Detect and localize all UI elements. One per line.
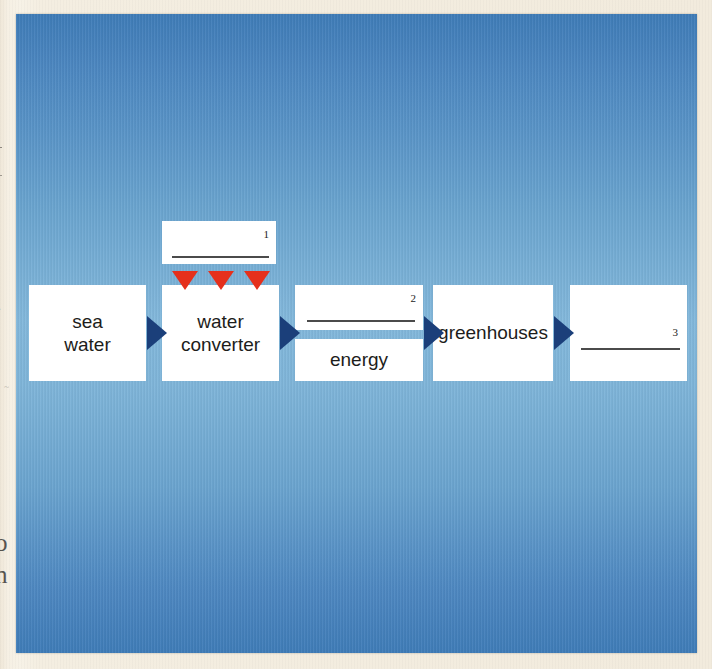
node-label-line: converter xyxy=(181,333,260,356)
node-label-line: water xyxy=(64,333,110,356)
flow-arrow-icon xyxy=(280,316,300,350)
diagram-node-water-converter: water converter xyxy=(162,285,279,381)
page-edge-fragment: - xyxy=(0,168,2,181)
red-triangle-icon xyxy=(208,271,234,290)
red-triangle-icon xyxy=(244,271,270,290)
blank-number-3: 3 xyxy=(673,326,679,338)
page-edge-fragment: n xyxy=(0,562,8,587)
node-label-line: greenhouses xyxy=(438,321,548,344)
diagram-node-blank-3[interactable]: 3 xyxy=(570,285,687,381)
flow-arrow-icon xyxy=(424,316,444,350)
blank-rule-1 xyxy=(172,256,269,258)
scanned-page: - - . ~ o n 1 sea water water converter xyxy=(0,0,712,669)
figure-panel: 1 sea water water converter 2 xyxy=(16,14,697,653)
flow-arrow-icon xyxy=(147,316,167,350)
diagram-node-sea-water: sea water xyxy=(29,285,146,381)
diagram-node-blank-2[interactable]: 2 xyxy=(295,285,423,330)
page-edge-fragment: . xyxy=(0,300,1,312)
node-label-line: water xyxy=(181,310,260,333)
blank-rule-3 xyxy=(581,348,680,350)
flow-arrow-icon xyxy=(554,316,574,350)
blank-number-2: 2 xyxy=(411,292,417,304)
page-edge-fragment: o xyxy=(0,530,8,555)
page-edge-smudge: ~ xyxy=(4,382,9,392)
diagram-node-blank-1[interactable]: 1 xyxy=(162,221,276,264)
node-label-line: sea xyxy=(64,310,110,333)
blank-rule-2 xyxy=(307,320,416,322)
diagram-node-energy: energy xyxy=(295,339,423,381)
blank-number-1: 1 xyxy=(264,228,270,240)
page-edge-fragment: - xyxy=(0,140,2,153)
node-label-line: energy xyxy=(330,348,388,371)
diagram-node-greenhouses: greenhouses xyxy=(433,285,553,381)
red-triangle-icon xyxy=(172,271,198,290)
